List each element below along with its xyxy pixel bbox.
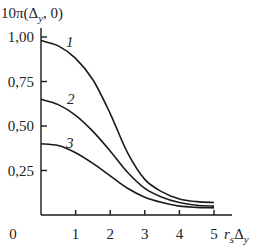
y-axis-title: 10π(Δy, 0) bbox=[1, 5, 63, 24]
y-tick-label: 0,75 bbox=[8, 74, 34, 90]
y-tick-label: 0,25 bbox=[8, 163, 34, 179]
curve-label-1: 1 bbox=[66, 34, 74, 50]
curve-label-3: 3 bbox=[65, 135, 74, 151]
x-tick-label: 4 bbox=[176, 226, 184, 242]
chart: 0123450,250,500,751,0012310π(Δy, 0)rsΔy bbox=[0, 0, 255, 245]
curves bbox=[41, 41, 214, 208]
curve-1 bbox=[41, 41, 214, 203]
y-tick-label: 1,00 bbox=[8, 29, 34, 45]
x-tick-label: 5 bbox=[210, 226, 218, 242]
x-tick-label: 3 bbox=[141, 226, 149, 242]
x-tick-label: 0 bbox=[9, 226, 17, 242]
y-tick-label: 0,50 bbox=[8, 118, 34, 134]
labels: 0123450,250,500,751,0012310π(Δy, 0)rsΔy bbox=[1, 5, 249, 245]
x-tick-label: 1 bbox=[72, 226, 80, 242]
curve-label-2: 2 bbox=[67, 91, 75, 107]
x-tick-label: 2 bbox=[106, 226, 114, 242]
axes bbox=[41, 28, 232, 215]
x-axis-title: rsΔy bbox=[224, 226, 249, 245]
